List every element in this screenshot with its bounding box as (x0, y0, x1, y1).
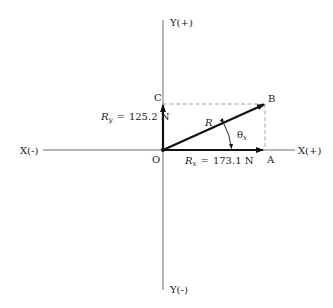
rx-label: Rx=173.1 N (184, 155, 254, 168)
rx-value: 173.1 N (213, 155, 254, 166)
x-neg-label: X(-) (20, 145, 38, 156)
origin-dot (161, 148, 165, 152)
ry-subscript: y (108, 116, 114, 124)
point-b-label: B (268, 93, 275, 104)
ry-value: 125.2 N (129, 111, 170, 122)
vector-components-diagram: X(-) X(+) Y(+) Y(-) O A B C R Rx=173.1 N… (0, 0, 333, 308)
y-neg-label: Y(-) (169, 284, 188, 295)
theta-subscript: x (243, 134, 247, 142)
point-c-label: C (154, 92, 162, 103)
point-o-label: O (152, 154, 160, 165)
r-label: R (204, 117, 213, 128)
rx-equals: = (200, 155, 208, 166)
point-a-label: A (266, 154, 275, 165)
rx-subscript: x (193, 160, 197, 168)
y-pos-label: Y(+) (169, 17, 193, 28)
angle-arc (224, 123, 232, 149)
x-pos-label: X(+) (298, 145, 321, 156)
ry-equals: = (117, 111, 125, 122)
theta-x-label: θx (237, 129, 247, 142)
vector-r (163, 105, 264, 151)
ry-label: Ry=125.2 N (100, 111, 170, 124)
